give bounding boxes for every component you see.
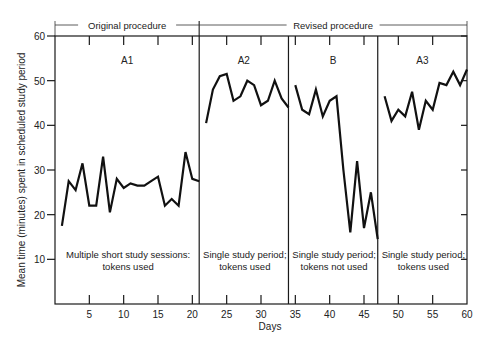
phase-description: tokens used	[102, 261, 153, 272]
phase-name: A3	[416, 55, 429, 66]
x-tick-label: 10	[118, 309, 130, 320]
phase-description: Multiple short study sessions:	[66, 249, 190, 260]
procedure-header-label: Revised procedure	[293, 20, 373, 31]
x-tick-label: 60	[461, 309, 473, 320]
x-tick-label: 50	[393, 309, 405, 320]
x-tick-label: 45	[358, 309, 370, 320]
series-line-b	[295, 85, 377, 239]
procedure-headers: Original procedureRevised procedure	[55, 20, 467, 37]
x-tick-label: 55	[427, 309, 439, 320]
phase-name: B	[330, 55, 337, 66]
phase-description: Single study period;	[292, 249, 375, 260]
study-time-chart: Original procedureRevised procedure 1020…	[0, 0, 496, 351]
y-axis: 102030405060	[34, 31, 467, 265]
phase-name: A2	[238, 55, 251, 66]
y-tick-label: 40	[34, 120, 46, 131]
phase-description: tokens used	[219, 261, 270, 272]
y-tick-label: 30	[34, 165, 46, 176]
y-tick-label: 50	[34, 76, 46, 87]
x-axis-label: Days	[259, 321, 282, 332]
phase-description: tokens used	[398, 261, 449, 272]
y-tick-label: 10	[34, 254, 46, 265]
series-line-a2	[206, 74, 288, 123]
phase-description: Single study period;	[382, 249, 465, 260]
series-line-a1	[62, 152, 199, 226]
phase-name: A1	[121, 55, 134, 66]
phase-description: Single study period;	[203, 249, 286, 260]
x-tick-label: 30	[255, 309, 267, 320]
phase-labels: A1Multiple short study sessions:tokens u…	[66, 55, 465, 272]
data-lines	[62, 70, 467, 240]
procedure-header-label: Original procedure	[88, 20, 166, 31]
y-tick-label: 20	[34, 210, 46, 221]
x-tick-label: 20	[187, 309, 199, 320]
phase-description: tokens not used	[301, 261, 368, 272]
x-axis: 51015202530354045505560	[87, 36, 473, 320]
x-tick-label: 40	[324, 309, 336, 320]
y-tick-label: 60	[34, 31, 46, 42]
x-tick-label: 35	[290, 309, 302, 320]
x-tick-label: 25	[221, 309, 233, 320]
x-tick-label: 5	[87, 309, 93, 320]
y-axis-label: Mean time (minutes) spent in scheduled s…	[16, 53, 27, 288]
x-tick-label: 15	[152, 309, 164, 320]
series-line-a3	[385, 70, 467, 130]
